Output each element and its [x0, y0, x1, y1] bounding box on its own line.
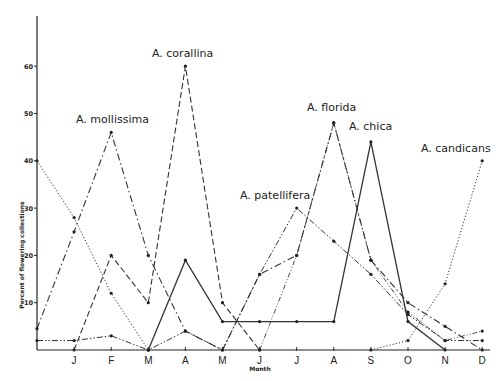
series-line — [37, 161, 148, 350]
y-ticks: 102030405060 — [24, 63, 37, 308]
data-point — [184, 329, 187, 332]
data-point — [73, 348, 76, 351]
data-point — [481, 348, 484, 351]
data-point — [258, 348, 261, 351]
data-point — [184, 65, 187, 68]
series-line — [37, 123, 482, 350]
x-tick-label: J — [294, 355, 299, 366]
data-point — [332, 121, 335, 124]
data-point — [110, 131, 113, 134]
x-tick-label: O — [404, 355, 412, 366]
label-florida: A. florida — [307, 101, 356, 114]
y-tick-label: 30 — [24, 205, 34, 213]
data-point — [147, 254, 150, 257]
y-tick-label: 50 — [24, 110, 34, 118]
data-point — [73, 216, 76, 219]
data-point — [444, 348, 447, 351]
label-patellifera: A. patellifera — [240, 189, 310, 202]
y-tick-label: 60 — [24, 63, 34, 71]
data-point — [295, 320, 298, 323]
x-tick-label: S — [368, 355, 375, 366]
series-group — [35, 65, 483, 352]
data-point — [258, 320, 261, 323]
series-line — [371, 161, 482, 350]
y-tick-label: 10 — [24, 299, 34, 307]
series-patellifera — [35, 207, 483, 352]
label-chica: A. chica — [349, 120, 392, 133]
label-candicans: A. candicans — [421, 142, 491, 155]
x-tick-label: N — [441, 355, 448, 366]
data-point — [406, 311, 409, 314]
data-point — [332, 320, 335, 323]
x-tick-label: M — [218, 355, 226, 366]
data-point — [258, 273, 261, 276]
data-point — [481, 339, 484, 342]
data-point — [332, 240, 335, 243]
data-point — [73, 230, 76, 233]
data-point — [406, 301, 409, 304]
flowering-line-chart: 102030405060 JFMAMJJASOND Percent of flo… — [0, 0, 501, 381]
series-mollissima — [35, 121, 483, 351]
data-point — [444, 339, 447, 342]
data-point — [444, 282, 447, 285]
x-tick-label: A — [182, 355, 189, 366]
x-tick-label: D — [479, 355, 486, 366]
x-axis-title: Month — [249, 365, 271, 372]
data-point — [444, 325, 447, 328]
data-point — [221, 348, 224, 351]
data-point — [369, 348, 372, 351]
data-point — [295, 254, 298, 257]
data-point — [147, 348, 150, 351]
data-point — [221, 320, 224, 323]
data-point — [406, 339, 409, 342]
data-point — [110, 334, 113, 337]
data-point — [35, 159, 38, 162]
x-tick-label: F — [108, 355, 114, 366]
series-line — [260, 123, 483, 350]
x-tick-label: M — [144, 355, 152, 366]
data-point — [481, 159, 484, 162]
data-point — [481, 329, 484, 332]
data-point — [221, 301, 224, 304]
series-florida — [258, 121, 484, 351]
series-line — [74, 66, 260, 350]
data-point — [35, 339, 38, 342]
data-point — [35, 327, 38, 330]
data-point — [406, 320, 409, 323]
y-tick-label: 40 — [24, 157, 34, 165]
data-point — [147, 301, 150, 304]
data-point — [369, 273, 372, 276]
series-chica — [147, 140, 447, 351]
label-mollissima: A. mollissima — [76, 113, 149, 126]
series-corallina — [73, 65, 262, 352]
data-point — [369, 140, 372, 143]
data-point — [184, 259, 187, 262]
x-tick-label: J — [72, 355, 77, 366]
y-tick-label: 20 — [24, 252, 34, 260]
y-axis-title: Percent of flowering collections — [18, 201, 26, 309]
data-point — [369, 259, 372, 262]
x-tick-label: A — [330, 355, 337, 366]
data-point — [295, 207, 298, 210]
data-point — [73, 339, 76, 342]
data-point — [110, 292, 113, 295]
data-point — [110, 254, 113, 257]
series-line — [148, 142, 445, 350]
label-corallina: A. corallina — [152, 47, 213, 60]
